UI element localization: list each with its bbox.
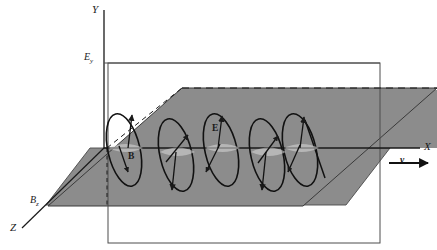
amplitude-label-ey-sub: y (90, 57, 93, 65)
vector-label-v: v (400, 156, 404, 166)
em-wave-figure: Y X Z Ey Bz E B v (0, 0, 437, 250)
vector-label-e: E (212, 124, 218, 134)
axis-label-bz: Bz (30, 195, 39, 208)
axis-label-bz-sub: z (36, 200, 39, 208)
axis-label-z: Z (10, 222, 16, 233)
vector-label-b: B (128, 152, 134, 162)
axis-label-y: Y (92, 4, 98, 15)
amplitude-label-ey: Ey (84, 52, 93, 65)
axis-label-x: X (424, 141, 431, 152)
em-wave-diagram-svg (0, 0, 437, 250)
